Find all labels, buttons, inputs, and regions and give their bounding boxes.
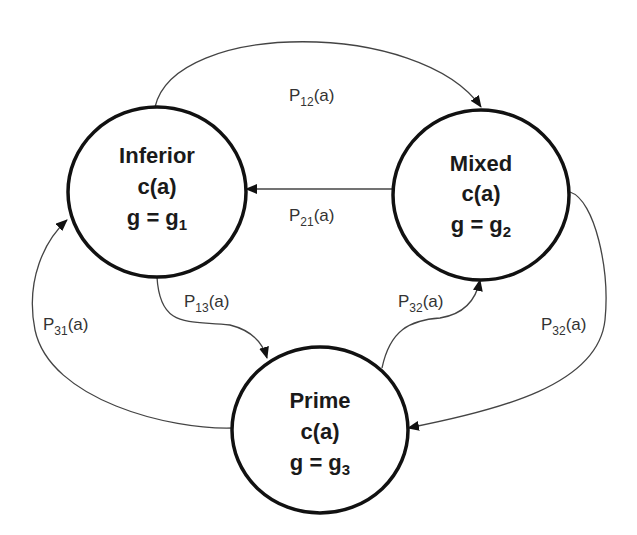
node-title: Inferior [119, 143, 195, 168]
node-inferior: Inferior c(a) g = g1 [68, 107, 246, 277]
edge-p13 [157, 277, 267, 358]
arrow-p13-icon [157, 277, 267, 358]
node-title: Mixed [450, 151, 512, 176]
node-title: Prime [289, 388, 350, 413]
edge-label-p31: P31(a) [43, 315, 88, 338]
node-g: g = g2 [451, 212, 511, 240]
edge-label-p32: P32(a) [398, 292, 443, 315]
node-g: g = g3 [290, 450, 350, 478]
edge-label-p12: P12(a) [289, 86, 334, 109]
node-mixed: Mixed c(a) g = g2 [393, 110, 569, 280]
node-cost: c(a) [461, 181, 500, 206]
node-cost: c(a) [300, 419, 339, 444]
state-diagram: P12(a) P21(a) P13(a) P31(a) P32(a) P32(a… [0, 0, 637, 535]
node-cost: c(a) [137, 174, 176, 199]
edge-label-p32b: P32(a) [541, 315, 586, 338]
edge-label-p13: P13(a) [184, 292, 229, 315]
edge-label-p21: P21(a) [289, 206, 334, 229]
node-prime: Prime c(a) g = g3 [232, 347, 408, 513]
node-g: g = g1 [127, 205, 187, 233]
